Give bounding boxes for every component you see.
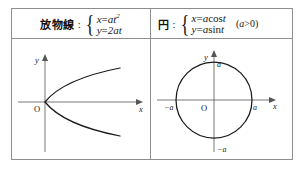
header-cell-parabola: 放物線 : { x=at2 y=2at (12, 9, 151, 38)
circle-brace: { (180, 11, 189, 36)
circle-tick-right: a (253, 103, 257, 112)
circle-equation-y: y=asint (192, 24, 226, 35)
parabola-equation-stack: x=at2 y=2at (97, 11, 122, 36)
parabola-equation-y: y=2at (97, 25, 122, 36)
parabola-header-inner: 放物線 : { x=at2 y=2at (40, 11, 122, 36)
circle-equation-stack: x=acost y=asint (192, 13, 226, 35)
comparison-table: 放物線 : { x=at2 y=2at 円 (11, 8, 293, 160)
circle-y-axis-arrow (211, 50, 217, 57)
body-cell-circle-graph: y x O a a −a −a (151, 39, 294, 160)
circle-tick-top: a (217, 60, 221, 69)
circle-y-label: y (203, 52, 208, 62)
circle-label: 円 (158, 16, 170, 32)
circle-svg: y x O a a −a −a (151, 39, 294, 160)
circle-origin-label: O (201, 103, 207, 113)
header-cell-circle: 円 : { x=acost y=asint (a>0) (151, 9, 294, 38)
circle-colon: : (173, 18, 176, 30)
parabola-equation-x: x=at2 (97, 11, 122, 25)
parabola-y-axis-arrow (42, 54, 48, 61)
parabola-brace: { (85, 11, 94, 36)
parabola-x-label: x (138, 104, 143, 114)
parabola-origin-label: O (34, 104, 40, 114)
parabola-graph: y x O (12, 39, 150, 160)
body-cell-parabola-graph: y x O (12, 39, 151, 160)
circle-x-label: x (272, 101, 277, 111)
figure-root: 放物線 : { x=at2 y=2at 円 (0, 0, 308, 172)
circle-tick-bottom: −a (217, 145, 226, 154)
circle-tick-left: −a (164, 103, 173, 112)
circle-graph: y x O a a −a −a (151, 39, 294, 160)
circle-header-inner: 円 : { x=acost y=asint (a>0) (158, 11, 258, 36)
table-body-row: y x O (12, 39, 292, 160)
circle-condition: (a>0) (236, 18, 258, 29)
table-header-row: 放物線 : { x=at2 y=2at 円 (12, 9, 292, 39)
parabola-y-label: y (34, 55, 39, 65)
parabola-label: 放物線 (40, 16, 75, 32)
parabola-colon: : (78, 18, 81, 30)
parabola-svg: y x O (12, 39, 151, 160)
